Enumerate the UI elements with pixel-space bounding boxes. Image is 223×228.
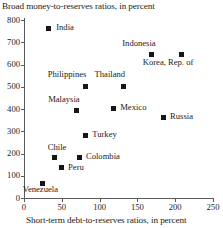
y-tick-mark [21, 176, 24, 177]
data-point-marker [52, 155, 57, 160]
x-tick-label: 50 [49, 203, 75, 212]
y-tick-label: 700 [0, 38, 20, 47]
y-tick-label: 300 [0, 127, 20, 136]
y-tick-mark [21, 87, 24, 88]
data-point-label: Korea, Rep. of [143, 58, 194, 67]
x-tick-label: 150 [124, 203, 150, 212]
y-tick-mark [21, 42, 24, 43]
y-axis-line [24, 18, 25, 199]
data-point-label: Indonesia [122, 39, 155, 48]
data-point-marker [161, 115, 166, 120]
scatter-chart: Broad money-to-reserves ratios, in perce… [0, 0, 223, 228]
y-tick-mark [21, 131, 24, 132]
x-tick-label: 250 [200, 203, 223, 212]
y-tick-label: 200 [0, 149, 20, 158]
data-point-label: Turkey [92, 130, 117, 139]
data-point-marker [111, 106, 116, 111]
data-point-label: India [56, 23, 74, 32]
x-axis-line [24, 198, 214, 199]
data-point-label: Colombia [86, 152, 120, 161]
y-tick-mark [21, 65, 24, 66]
data-point-label: Chile [48, 143, 67, 152]
y-tick-label: 400 [0, 105, 20, 114]
data-point-marker [83, 84, 88, 89]
data-point-marker [46, 26, 51, 31]
y-tick-label: 500 [0, 82, 20, 91]
y-tick-mark [21, 154, 24, 155]
x-tick-label: 0 [11, 203, 37, 212]
data-point-label: Mexico [120, 103, 146, 112]
data-point-label: Philippines [48, 70, 87, 79]
x-axis-label: Short-term debt-to-reserves ratios, in p… [26, 215, 186, 226]
data-point-marker [121, 84, 126, 89]
x-tick-label: 100 [87, 203, 113, 212]
data-point-label: Venezuela [23, 185, 58, 194]
y-tick-mark [21, 20, 24, 21]
data-point-marker [74, 108, 79, 113]
x-tick-label: 200 [162, 203, 188, 212]
y-tick-label: 100 [0, 171, 20, 180]
data-point-marker [77, 155, 82, 160]
data-point-label: Peru [68, 163, 84, 172]
chart-title: Broad money-to-reserves ratios, in perce… [2, 0, 155, 12]
y-tick-label: 600 [0, 60, 20, 69]
y-tick-label: 800 [0, 16, 20, 25]
y-tick-mark [21, 109, 24, 110]
data-point-label: Russia [170, 112, 193, 121]
data-point-marker [59, 165, 64, 170]
data-point-label: Thailand [95, 70, 126, 79]
data-point-marker [83, 133, 88, 138]
data-point-label: Malaysia [48, 95, 80, 104]
y-tick-label: 0 [0, 194, 20, 203]
